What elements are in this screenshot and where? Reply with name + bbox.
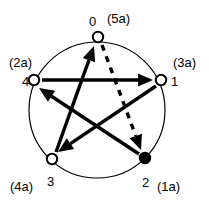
node-1-number-label: 1 xyxy=(171,75,178,88)
node-3-alias-label: (4a) xyxy=(10,180,33,193)
pentagon-star-graph-svg xyxy=(0,0,209,201)
node-4[interactable] xyxy=(29,75,39,85)
edge-0-to-2-line xyxy=(102,45,136,136)
node-2-alias-label: (1a) xyxy=(157,180,180,193)
node-0-number-label: 0 xyxy=(89,15,96,28)
edge-4-to-1-arrowhead-icon xyxy=(138,73,153,86)
node-1-alias-label: (3a) xyxy=(173,56,196,69)
node-3[interactable] xyxy=(47,154,57,164)
node-3-number-label: 3 xyxy=(47,175,54,188)
node-1[interactable] xyxy=(156,75,166,85)
node-2[interactable] xyxy=(140,153,150,163)
edges-group xyxy=(39,45,156,154)
edge-4-to-1 xyxy=(42,73,153,86)
edge-2-to-4-arrowhead-icon xyxy=(39,88,55,102)
edge-3-to-0-line xyxy=(56,60,89,152)
figure-root: 0(5a)1(3a)2(1a)3(4a)4(2a) xyxy=(0,0,209,201)
edge-3-to-0-arrowhead-icon xyxy=(83,46,95,62)
node-0[interactable] xyxy=(93,32,103,42)
node-4-alias-label: (2a) xyxy=(9,56,32,69)
edge-3-to-0 xyxy=(56,46,95,152)
node-0-alias-label: (5a) xyxy=(107,12,130,25)
edge-2-to-4 xyxy=(39,88,139,154)
node-2-number-label: 2 xyxy=(142,176,149,189)
node-4-number-label: 4 xyxy=(22,75,29,88)
